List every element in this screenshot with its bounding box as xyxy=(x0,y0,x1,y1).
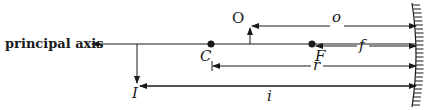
diagram-canvas xyxy=(0,0,428,110)
mirror-diagram: principal axis C F O I o f r i xyxy=(0,0,428,110)
radius-label: r xyxy=(313,58,320,73)
object-distance-label: o xyxy=(332,10,341,25)
center-of-curvature-label: C xyxy=(200,49,211,64)
image-distance-label: i xyxy=(267,89,272,104)
object-label: O xyxy=(232,11,244,26)
principal-axis-label: principal axis xyxy=(5,37,104,50)
focal-length-label: f xyxy=(359,38,365,53)
image-label: I xyxy=(132,86,138,101)
concave-mirror xyxy=(412,3,424,107)
